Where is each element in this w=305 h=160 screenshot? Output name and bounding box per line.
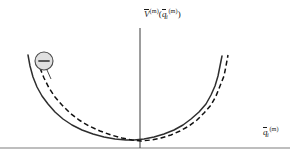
- y-axis-label-q-subscript: i: [166, 13, 168, 20]
- y-axis-label: V(m)(qi(m)): [144, 10, 181, 19]
- minus-sign-marker: [35, 52, 53, 70]
- x-axis-label-q-superscript: (m): [269, 125, 278, 132]
- annotation-leader-line: [47, 70, 51, 79]
- solid-potential-curve: [28, 55, 222, 140]
- dashed-potential-curve: [40, 55, 228, 141]
- figure-canvas: [0, 0, 305, 160]
- potential-curve-figure: V(m)(qi(m)) qi(m): [0, 0, 305, 160]
- y-axis-label-v: V: [144, 10, 150, 19]
- x-axis-label: qi(m): [263, 128, 279, 137]
- y-axis-label-close-paren: ): [178, 9, 181, 19]
- y-axis-label-v-superscript: (m): [150, 7, 159, 14]
- y-axis-label-q-superscript: (m): [168, 7, 177, 14]
- x-axis-label-q-subscript: i: [267, 131, 269, 138]
